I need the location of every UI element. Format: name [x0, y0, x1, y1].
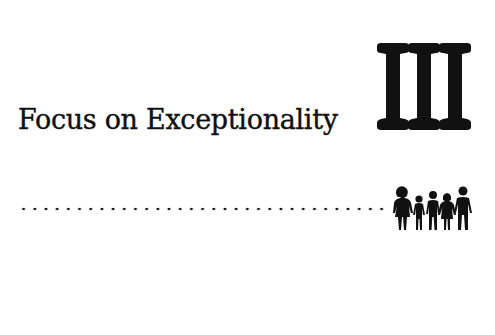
dotted-divider	[18, 207, 390, 211]
girl-figure-icon	[438, 193, 456, 230]
chapter-title: Focus on Exceptionality	[18, 104, 338, 135]
family-icon-group	[390, 186, 472, 232]
boy-figure-icon	[426, 191, 440, 230]
man-figure-icon	[454, 187, 472, 231]
woman-figure-icon	[393, 186, 413, 230]
family-icon	[390, 186, 472, 232]
part-numeral	[374, 42, 474, 132]
roman-numeral-three-icon	[374, 42, 474, 132]
child-figure-icon	[413, 195, 425, 230]
